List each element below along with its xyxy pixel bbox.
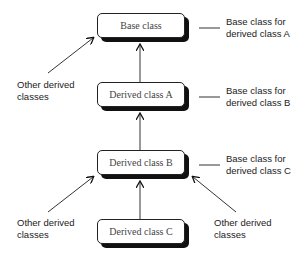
side-label-b: Base class for derived class B (226, 85, 290, 109)
other-derived-label-top: Other derived classes (17, 79, 75, 103)
box-label: Derived class B (109, 157, 172, 168)
box-label: Derived class C (109, 226, 172, 237)
side-label-a: Base class for derived class A (226, 16, 290, 40)
box-derived-class-a: Derived class A (97, 82, 185, 107)
box-label: Base class (120, 20, 161, 31)
side-label-c: Base class for derived class C (226, 153, 291, 177)
arrow-other-to-b-left (48, 177, 93, 212)
arrow-other-to-b-right (193, 177, 236, 212)
box-derived-class-c: Derived class C (97, 219, 185, 244)
other-derived-label-right: Other derived classes (214, 217, 272, 241)
arrow-other-to-base (48, 38, 93, 73)
box-base-class: Base class (97, 13, 185, 38)
box-label: Derived class A (109, 89, 172, 100)
box-derived-class-b: Derived class B (97, 150, 185, 175)
other-derived-label-left: Other derived classes (17, 217, 75, 241)
